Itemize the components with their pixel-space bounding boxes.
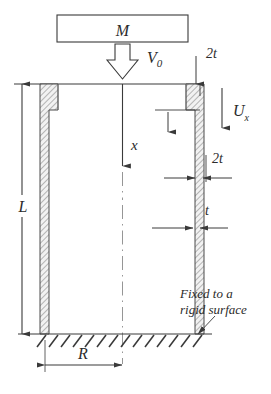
fixed-support	[18, 334, 212, 347]
thin-wall-dimension: t	[152, 203, 228, 228]
tube-impact-diagram: M V0 x 2t Ux L	[0, 0, 271, 394]
displacement-label: Ux	[233, 102, 250, 123]
impact-arrow-group: V0	[107, 44, 163, 79]
displacement-group: Ux	[222, 88, 250, 128]
top-thickness-dimension: 2t	[196, 46, 218, 84]
length-dimension: L	[15, 84, 31, 334]
impact-velocity-label: V0	[147, 49, 163, 69]
mass-block: M	[57, 15, 188, 42]
impact-velocity-arrow	[107, 44, 138, 79]
support-note-line2: rigid surface	[180, 302, 247, 317]
mass-label: M	[115, 22, 131, 39]
diagram-canvas: M V0 x 2t Ux L	[0, 0, 271, 394]
top-thickness-label: 2t	[206, 46, 218, 61]
ground-hatching	[37, 335, 202, 347]
wall-thickness-thin-label: t	[205, 203, 210, 218]
axis-group: x	[123, 84, 139, 364]
tube-wall-left	[40, 84, 58, 334]
axial-coordinate-label: x	[130, 137, 138, 153]
length-label: L	[18, 198, 28, 215]
support-note-group: Fixed to a rigid surface	[179, 286, 247, 334]
radius-label: R	[77, 345, 88, 362]
support-note-line1: Fixed to a	[179, 286, 233, 301]
wall-thickness-thick-label: 2t	[212, 151, 224, 166]
